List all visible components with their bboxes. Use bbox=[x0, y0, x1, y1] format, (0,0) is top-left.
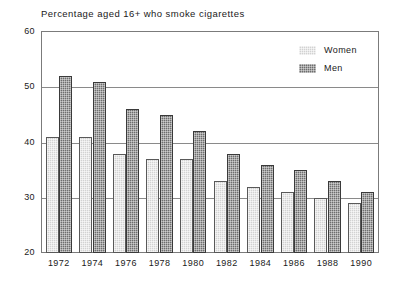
y-tick-label: 20 bbox=[2, 247, 35, 257]
x-tick-label: 1986 bbox=[277, 258, 311, 268]
x-tick-label: 1974 bbox=[76, 258, 110, 268]
x-tick-label: 1976 bbox=[109, 258, 143, 268]
y-tick-label: 30 bbox=[2, 192, 35, 202]
y-tick-label: 60 bbox=[2, 26, 35, 36]
legend-swatch-men bbox=[299, 64, 316, 73]
x-tick-label: 1984 bbox=[244, 258, 278, 268]
y-tick-label: 40 bbox=[2, 137, 35, 147]
x-tick-label: 1988 bbox=[311, 258, 345, 268]
smoking-prevalence-bar-chart: Percentage aged 16+ who smoke cigarettes… bbox=[0, 0, 400, 289]
chart-legend: WomenMen bbox=[299, 43, 373, 79]
x-tick-label: 1972 bbox=[42, 258, 76, 268]
x-tick-label: 1980 bbox=[176, 258, 210, 268]
legend-item-women: Women bbox=[299, 43, 373, 57]
y-tick-label: 50 bbox=[2, 81, 35, 91]
legend-item-men: Men bbox=[299, 61, 373, 75]
legend-swatch-women bbox=[299, 46, 316, 55]
legend-label: Men bbox=[324, 63, 343, 73]
x-tick-label: 1982 bbox=[210, 258, 244, 268]
legend-label: Women bbox=[324, 45, 357, 55]
x-tick-label: 1990 bbox=[344, 258, 378, 268]
x-tick-label: 1978 bbox=[143, 258, 177, 268]
